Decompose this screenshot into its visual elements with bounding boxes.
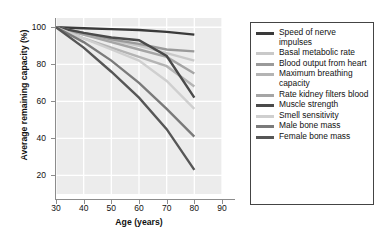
legend-item[interactable]: Muscle strength <box>256 100 369 110</box>
series-line <box>56 27 194 170</box>
legend-item[interactable]: Smell sensitivity <box>256 111 369 121</box>
legend-item[interactable]: Basal metabolic rate <box>256 48 369 58</box>
legend-item-label: Female bone mass <box>279 132 350 142</box>
y-tick-mark <box>51 27 55 28</box>
legend-item[interactable]: Female bone mass <box>256 132 369 142</box>
y-tick-mark <box>51 101 55 102</box>
legend-item-label: Rate kidney filters blood <box>279 90 368 100</box>
legend-item-label: Muscle strength <box>279 100 338 110</box>
legend-item-label: Blood output from heart <box>279 59 367 69</box>
y-tick-mark <box>51 64 55 65</box>
chart-figure: 20406080100 30405060708090 Average remai… <box>0 0 378 252</box>
legend-item-label: Basal metabolic rate <box>279 48 355 58</box>
x-tick-label: 80 <box>182 204 206 213</box>
legend-item-label: Speed of nerve impulses <box>279 28 369 47</box>
legend-swatch-icon <box>256 115 274 118</box>
plot-area <box>56 18 222 194</box>
legend-swatch-icon <box>256 73 274 76</box>
legend-item[interactable]: Blood output from heart <box>256 59 369 69</box>
legend-swatch-icon <box>256 125 274 128</box>
x-tick-label: 40 <box>72 204 96 213</box>
legend-swatch-icon <box>256 32 274 35</box>
legend-swatch-icon <box>256 63 274 66</box>
legend-box: Speed of nerve impulsesBasal metabolic r… <box>250 22 374 205</box>
data-series-group <box>56 27 194 170</box>
y-tick-mark <box>51 138 55 139</box>
x-tick-label: 60 <box>127 204 151 213</box>
x-tick-label: 70 <box>155 204 179 213</box>
legend-swatch-icon <box>256 136 274 139</box>
legend-swatch-icon <box>256 52 274 55</box>
y-axis-line <box>55 18 56 200</box>
legend-item[interactable]: Speed of nerve impulses <box>256 28 369 47</box>
legend-item[interactable]: Male bone mass <box>256 121 369 131</box>
legend-item-label: Maximum breathing capacity <box>279 69 369 88</box>
y-tick-mark <box>51 175 55 176</box>
plot-canvas <box>56 18 222 194</box>
legend-item-label: Male bone mass <box>279 121 340 131</box>
legend-item-label: Smell sensitivity <box>279 111 339 121</box>
legend-item[interactable]: Rate kidney filters blood <box>256 90 369 100</box>
x-axis-title: Age (years) <box>56 217 222 227</box>
x-tick-label: 50 <box>99 204 123 213</box>
x-axis-line <box>55 199 235 200</box>
y-axis-title: Average remaining capacity (%) <box>19 7 29 183</box>
x-tick-label: 30 <box>44 204 68 213</box>
x-tick-label: 90 <box>210 204 234 213</box>
legend-item[interactable]: Maximum breathing capacity <box>256 69 369 88</box>
legend-swatch-icon <box>256 104 274 107</box>
legend-swatch-icon <box>256 94 274 97</box>
